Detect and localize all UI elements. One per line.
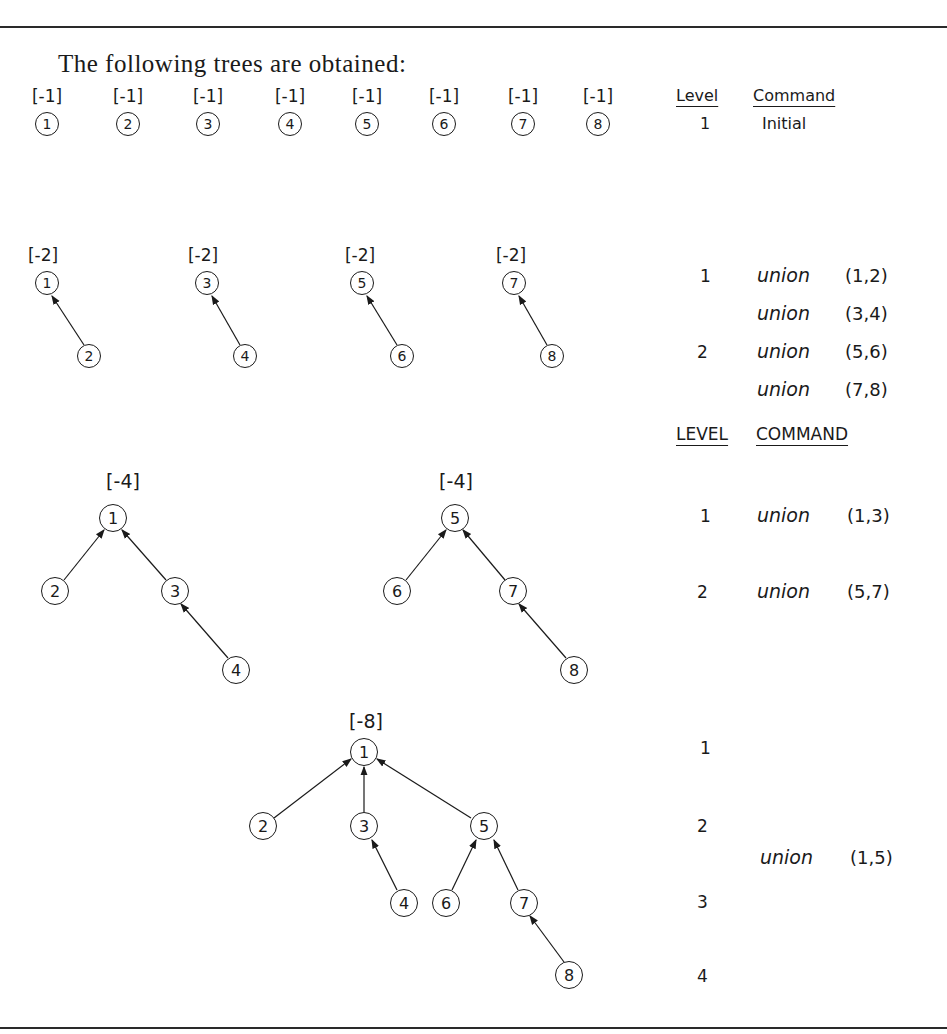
tree-node-root: 5	[441, 504, 469, 532]
weight-label: [-1]	[508, 86, 538, 106]
command-args: (5,7)	[847, 581, 890, 602]
weight-label: [-2]	[345, 245, 375, 265]
command-op: union	[757, 302, 810, 324]
level-value: 1	[700, 266, 711, 286]
tree-node: 3	[161, 577, 189, 605]
tree-node: 8	[555, 961, 583, 989]
tree-node: 5	[470, 812, 498, 840]
level-value: 1	[700, 506, 711, 526]
tree-node-child: 6	[390, 344, 414, 368]
weight-label: [-2]	[188, 245, 218, 265]
command-args: (7,8)	[845, 379, 888, 400]
tree-node: 3	[350, 812, 378, 840]
weight-label: [-1]	[352, 86, 382, 106]
weight-label: [-1]	[193, 86, 223, 106]
level-header: Level	[676, 86, 718, 105]
weight-label: [-8]	[349, 710, 383, 732]
tree-node-child: 2	[77, 344, 101, 368]
command-header: Command	[753, 86, 835, 105]
tree-node: 7	[511, 112, 535, 136]
tree-node: 7	[510, 889, 538, 917]
weight-label: [-1]	[583, 86, 613, 106]
level-value: 4	[697, 966, 708, 986]
command-op: union	[760, 846, 813, 868]
tree-node: 6	[383, 577, 411, 605]
weight-label: [-4]	[439, 470, 473, 492]
command-op: union	[757, 340, 810, 362]
command-args: (5,6)	[845, 341, 888, 362]
command-args: (1,2)	[845, 265, 888, 286]
tree-node: 4	[222, 656, 250, 684]
weight-label: [-2]	[496, 245, 526, 265]
weight-label: [-4]	[106, 470, 140, 492]
tree-node-child: 8	[540, 344, 564, 368]
level-value: 1	[700, 114, 710, 133]
command-op: union	[757, 378, 810, 400]
tree-node: 8	[586, 112, 610, 136]
tree-node: 3	[196, 112, 220, 136]
tree-node-root: 1	[350, 738, 378, 766]
weight-label: [-1]	[32, 86, 62, 106]
tree-node: 2	[41, 577, 69, 605]
tree-node-root: 3	[195, 271, 219, 295]
weight-label: [-1]	[113, 86, 143, 106]
level-value: 2	[697, 816, 708, 836]
level-value: 1	[700, 738, 711, 758]
tree-node-root: 1	[99, 504, 127, 532]
tree-node: 1	[35, 112, 59, 136]
tree-node: 6	[432, 112, 456, 136]
level-header-caps: LEVEL	[676, 424, 728, 444]
command-op: union	[757, 264, 810, 286]
tree-node-root: 5	[350, 271, 374, 295]
tree-node: 8	[560, 656, 588, 684]
tree-node: 4	[278, 112, 302, 136]
level-value: 2	[697, 582, 708, 602]
tree-node: 7	[499, 577, 527, 605]
tree-node: 5	[355, 112, 379, 136]
level-value: 3	[697, 892, 708, 912]
tree-node-child: 4	[233, 344, 257, 368]
tree-node-root: 1	[35, 271, 59, 295]
level-value: 2	[697, 342, 708, 362]
command-op: union	[757, 504, 810, 526]
weight-label: [-1]	[275, 86, 305, 106]
command-args: (3,4)	[845, 303, 888, 324]
tree-node: 4	[390, 889, 418, 917]
weight-label: [-1]	[429, 86, 459, 106]
tree-node: 2	[249, 812, 277, 840]
command-value: Initial	[762, 114, 806, 133]
tree-node-root: 7	[502, 271, 526, 295]
tree-node: 2	[116, 112, 140, 136]
command-args: (1,5)	[850, 847, 893, 868]
tree-node: 6	[432, 889, 460, 917]
command-op: union	[757, 580, 810, 602]
weight-label: [-2]	[28, 245, 58, 265]
command-header-caps: COMMAND	[756, 424, 848, 444]
command-args: (1,3)	[847, 505, 890, 526]
